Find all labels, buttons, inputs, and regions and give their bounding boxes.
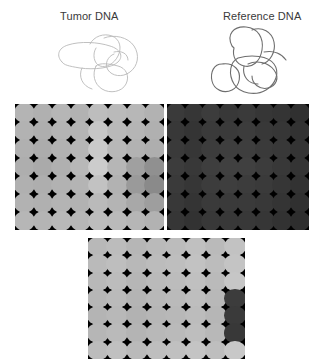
array-spot: [238, 176, 256, 194]
array-spot-dot: [185, 341, 207, 359]
array-spot-dot: [165, 323, 187, 342]
array-spot: [127, 307, 147, 324]
array-spot: [145, 122, 164, 140]
array-spot: [167, 212, 185, 230]
array-spot: [52, 176, 71, 194]
array-spot: [203, 212, 221, 230]
array-spot: [147, 324, 167, 341]
array-spot: [274, 212, 292, 230]
array-spot: [90, 212, 109, 230]
array-spot: [71, 194, 90, 212]
array-spot: [185, 122, 203, 140]
array-spot: [71, 176, 90, 194]
array-spot: [147, 307, 167, 324]
array-spot: [185, 140, 203, 158]
array-spot-dot: [290, 211, 309, 230]
array-spot: [225, 307, 245, 324]
array-spot: [145, 140, 164, 158]
array-spot: [52, 158, 71, 176]
array-spot: [127, 176, 146, 194]
array-spot-dot: [167, 211, 186, 230]
array-spot: [167, 255, 187, 272]
array-spot: [108, 342, 128, 359]
array-spot: [185, 212, 203, 230]
array-spot: [52, 212, 71, 230]
array-spot: [108, 307, 128, 324]
array-spot: [203, 176, 221, 194]
reference-dna-squiggle-icon: [208, 24, 294, 96]
array-spot: [167, 122, 185, 140]
array-spot: [127, 140, 146, 158]
array-spot: [238, 158, 256, 176]
array-spot-dot: [237, 211, 257, 230]
array-spot: [274, 122, 292, 140]
array-spot: [238, 104, 256, 122]
array-spot: [185, 158, 203, 176]
array-spot: [256, 176, 274, 194]
array-spot-dot: [107, 211, 128, 230]
array-spot: [127, 273, 147, 290]
cgh-array-figure: Tumor DNA Reference DNA: [0, 0, 321, 359]
array-spot: [206, 307, 226, 324]
array-spot: [291, 140, 309, 158]
array-spot: [127, 290, 147, 307]
array-spot: [147, 342, 167, 359]
array-spot: [220, 212, 238, 230]
array-spot: [52, 194, 71, 212]
array-spot: [34, 122, 53, 140]
array-spot: [108, 176, 127, 194]
array-spot-dot: [185, 323, 207, 342]
array-spot: [34, 140, 53, 158]
array-spot: [145, 104, 164, 122]
array-spot: [90, 122, 109, 140]
array-spot-dot: [126, 341, 148, 359]
array-spot: [108, 255, 128, 272]
tumor-array-panel: [15, 104, 164, 230]
array-spot: [206, 342, 226, 359]
array-spot: [71, 122, 90, 140]
array-spot-dot: [15, 211, 35, 230]
array-spot: [225, 238, 245, 255]
array-spot: [220, 176, 238, 194]
array-spot-dot: [224, 323, 245, 342]
array-spot: [206, 255, 226, 272]
array-spot: [186, 255, 206, 272]
array-spot: [108, 140, 127, 158]
array-spot: [71, 158, 90, 176]
array-spot: [90, 194, 109, 212]
array-spot: [203, 140, 221, 158]
array-spot: [238, 140, 256, 158]
array-spot: [127, 212, 146, 230]
array-spot-dot: [126, 323, 148, 342]
array-spot: [108, 104, 127, 122]
array-spot: [167, 194, 185, 212]
array-spot: [167, 238, 187, 255]
array-spot: [71, 212, 90, 230]
array-spot: [220, 194, 238, 212]
array-spot: [90, 176, 109, 194]
array-spot: [186, 342, 206, 359]
array-spot: [34, 194, 53, 212]
array-spot: [238, 194, 256, 212]
tumor-dna-label: Tumor DNA: [60, 10, 119, 22]
array-spot: [147, 238, 167, 255]
array-spot: [167, 104, 185, 122]
array-spot: [238, 122, 256, 140]
array-spot: [220, 104, 238, 122]
array-spot-dot: [185, 254, 207, 273]
array-spot: [274, 158, 292, 176]
array-spot: [225, 273, 245, 290]
array-spot: [291, 194, 309, 212]
array-spot: [147, 255, 167, 272]
array-spot: [186, 307, 206, 324]
array-spot: [90, 104, 109, 122]
array-spot: [71, 140, 90, 158]
array-spot: [145, 194, 164, 212]
array-spot: [127, 104, 146, 122]
array-spot: [291, 212, 309, 230]
array-spot: [34, 176, 53, 194]
array-spot: [71, 104, 90, 122]
array-spot: [186, 273, 206, 290]
array-spot: [15, 122, 34, 140]
array-spot: [220, 158, 238, 176]
